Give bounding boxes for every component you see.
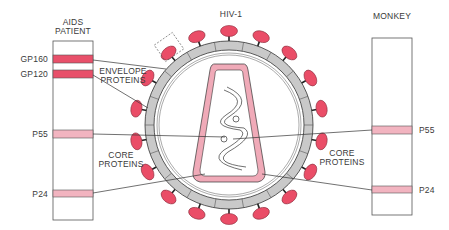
core-proteins-right-label-line2: PROTEINS xyxy=(316,157,368,167)
band-p55-right xyxy=(372,126,412,134)
band-p24-right xyxy=(372,186,412,193)
aids-patient-title-line2: PATIENT xyxy=(48,26,98,36)
band-label-gp160: GP160 xyxy=(8,54,48,64)
gp120-spike-icon xyxy=(130,99,144,118)
band-label-p24-right: P24 xyxy=(419,185,435,195)
band-gp120 xyxy=(53,70,93,78)
gp120-spike-icon xyxy=(187,29,207,45)
band-label-gp120: GP120 xyxy=(8,69,48,79)
gp120-spike-icon xyxy=(315,99,329,118)
gp120-spike-icon xyxy=(251,29,271,45)
diagram-title: HIV-1 xyxy=(213,9,249,19)
gp120-spike-icon xyxy=(187,205,207,221)
gp120-spike-icon xyxy=(251,205,271,221)
band-label-p55-right: P55 xyxy=(419,125,435,135)
gp120-spike-icon xyxy=(301,68,319,88)
band-p55-left xyxy=(53,130,93,138)
gp120-spike-icon xyxy=(221,26,238,37)
envelope-proteins-label-line2: PROTEINS xyxy=(96,75,150,85)
core-proteins-left-label-line2: PROTEINS xyxy=(95,159,147,169)
monkey-blot-strip xyxy=(372,38,412,215)
gp120-spike-icon xyxy=(221,214,238,225)
band-p24-left xyxy=(53,190,93,197)
monkey-title: MONKEY xyxy=(368,11,416,21)
band-label-p24-left: P24 xyxy=(8,189,48,199)
hiv-virion xyxy=(130,26,329,225)
band-gp160 xyxy=(53,55,93,63)
band-label-p55-left: P55 xyxy=(8,129,48,139)
aids-patient-blot-strip xyxy=(53,41,93,220)
